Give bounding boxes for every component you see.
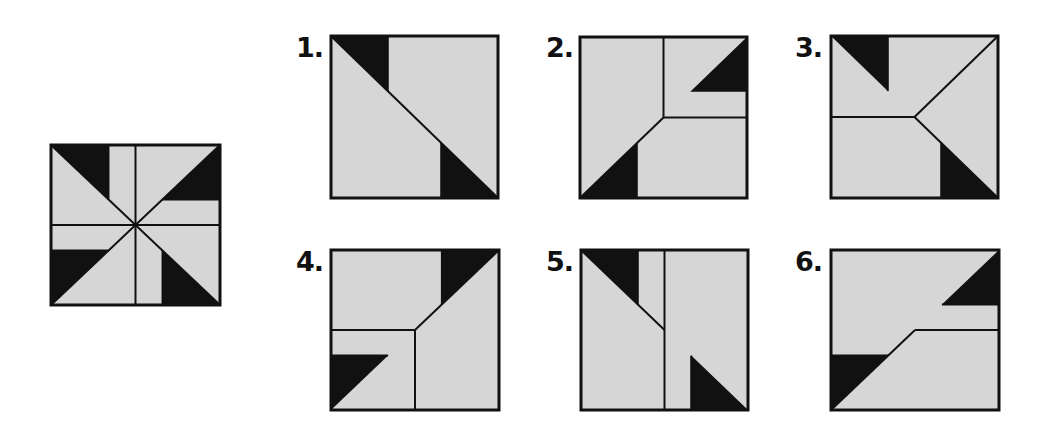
option-label-4: 4. (296, 246, 323, 277)
piece-graphic (331, 250, 499, 410)
piece-graphic (51, 145, 220, 305)
option-label-3: 3. (795, 32, 822, 63)
option-label-2: 2. (546, 32, 573, 63)
option-piece-1[interactable] (331, 36, 498, 198)
option-piece-2[interactable] (580, 37, 747, 198)
option-piece-4[interactable] (331, 250, 499, 410)
option-label-5: 5. (546, 246, 573, 277)
piece-graphic (831, 250, 999, 410)
piece-graphic (580, 37, 747, 198)
option-piece-5[interactable] (581, 250, 748, 410)
piece-graphic (831, 36, 998, 198)
piece-graphic (331, 36, 498, 198)
piece-graphic (581, 250, 748, 410)
option-label-1: 1. (296, 32, 323, 63)
target-pinwheel-figure (51, 145, 220, 305)
option-piece-6[interactable] (831, 250, 999, 410)
option-label-6: 6. (795, 246, 822, 277)
option-piece-3[interactable] (831, 36, 998, 198)
